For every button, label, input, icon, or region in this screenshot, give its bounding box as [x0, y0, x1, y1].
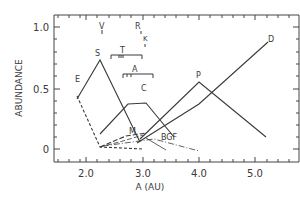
- x-axis-title: A (AU): [136, 182, 165, 192]
- x-tick-label: 2.0: [78, 168, 94, 179]
- y-tick-label: 0: [43, 144, 49, 155]
- y-axis-ticks: [54, 27, 60, 149]
- y-axis-right-ticks: [293, 27, 299, 149]
- A-range-bracket: [123, 74, 153, 78]
- T-range-bracket: [111, 55, 142, 59]
- label-R: R: [135, 22, 141, 31]
- label-T: T: [119, 46, 125, 55]
- abundance-chart: 2.0 3.0 4.0 5.0 1.0 0.5 0 A (AU) ABUNDAN…: [0, 0, 300, 204]
- label-V: V: [99, 22, 105, 31]
- label-C: C: [141, 84, 147, 93]
- x-axis-top-ticks: [58, 15, 289, 20]
- x-axis-ticks: [58, 157, 289, 162]
- y-axis-title: ABUNDANCE: [14, 59, 24, 117]
- V-R-K-markers: [102, 30, 145, 47]
- x-tick-label: 4.0: [191, 168, 207, 179]
- label-BGF: BGF: [161, 133, 178, 142]
- label-D: D: [268, 35, 274, 44]
- label-A: A: [132, 65, 138, 74]
- label-K: K: [143, 35, 148, 43]
- chart-svg: 2.0 3.0 4.0 5.0 1.0 0.5 0 A (AU) ABUNDAN…: [0, 0, 300, 204]
- series-P-line: [140, 82, 266, 139]
- label-P: P: [196, 71, 201, 80]
- label-M: M: [129, 127, 136, 136]
- series-C-line: [100, 103, 174, 137]
- y-tick-label: 0.5: [33, 84, 49, 95]
- label-S: S: [95, 49, 100, 58]
- y-tick-label: 1.0: [33, 22, 49, 33]
- x-tick-label: 5.0: [247, 168, 263, 179]
- x-tick-label: 3.0: [135, 168, 151, 179]
- label-E: E: [75, 75, 80, 84]
- series-D-line: [137, 42, 268, 143]
